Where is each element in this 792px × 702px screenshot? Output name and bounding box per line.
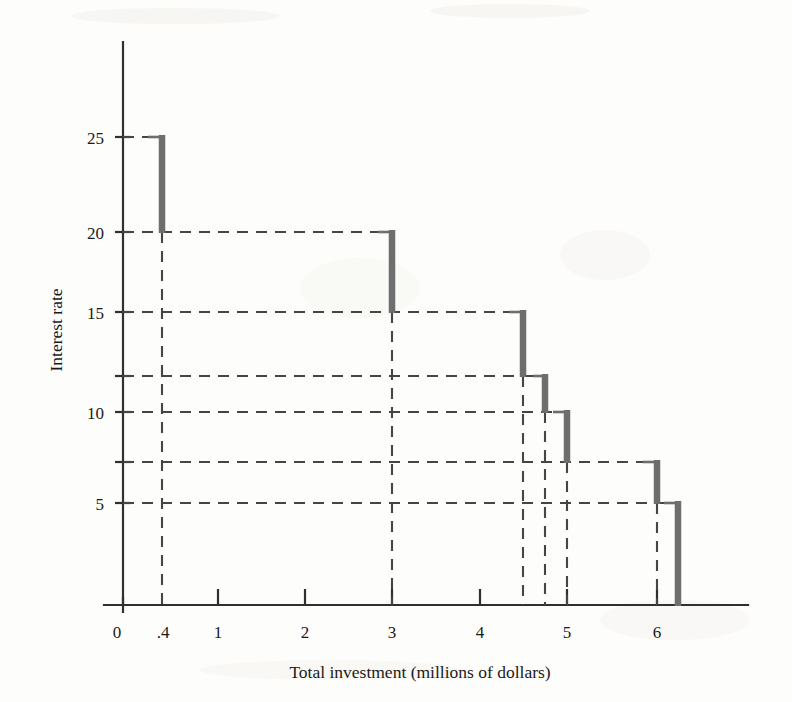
- x-tick-label-0point4: .4: [157, 623, 170, 642]
- step-risers-group: [162, 135, 678, 606]
- x-tick-label-6: 6: [653, 623, 662, 642]
- x-tick-label-5: 5: [563, 623, 572, 642]
- x-tick-label-3: 3: [388, 623, 397, 642]
- dashed-horizontal-guides: [123, 137, 678, 503]
- axes-group: [104, 42, 748, 605]
- y-tick-label-20: 20: [87, 224, 104, 243]
- y-tick-label-15: 15: [87, 304, 104, 323]
- x-tick-label-0: 0: [113, 623, 122, 642]
- step-chart-svg: 25 20 15 10 5 0 .4 1 2 3 4 5 6 Total inv…: [0, 0, 792, 702]
- y-tick-label-5: 5: [96, 495, 105, 514]
- chart-figure: 25 20 15 10 5 0 .4 1 2 3 4 5 6 Total inv…: [0, 0, 792, 702]
- y-tick-label-25: 25: [87, 129, 104, 148]
- x-tick-marks: [123, 589, 657, 613]
- x-tick-label-1: 1: [214, 623, 223, 642]
- x-tick-label-4: 4: [476, 623, 485, 642]
- y-axis-title: Interest rate: [46, 288, 66, 371]
- y-tick-labels: 25 20 15 10 5: [87, 129, 104, 514]
- x-axis-title: Total investment (millions of dollars): [289, 662, 550, 682]
- x-tick-labels: 0 .4 1 2 3 4 5 6: [113, 623, 662, 642]
- x-tick-label-2: 2: [301, 623, 310, 642]
- y-tick-label-10: 10: [87, 404, 104, 423]
- step-tread-caps: [148, 137, 680, 503]
- dashed-vertical-guides: [162, 232, 657, 605]
